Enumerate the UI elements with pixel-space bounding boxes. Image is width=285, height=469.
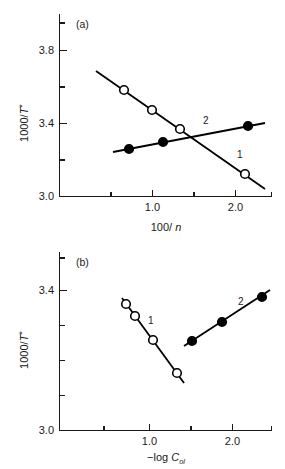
- chart-panel-a: 3.0 3.4 3.8 1.0 2.0 1000/T* 100/ n (a) 1…: [0, 0, 285, 240]
- panel-a-label: (a): [76, 18, 89, 30]
- panel-a-xlabel-1.0: 1.0: [145, 201, 160, 213]
- panel-b-series-1-point: [173, 369, 182, 378]
- panel-b-x-axis-title: −log Col: [147, 451, 185, 466]
- panel-b-xlabel-2.0: 2.0: [225, 435, 240, 447]
- panel-a-series-1-point: [176, 125, 185, 134]
- panel-a-series-1-point: [241, 170, 250, 179]
- panel-b-series-1-point: [122, 300, 131, 309]
- panel-a-x-axis-title-prefix: 100/: [151, 221, 175, 233]
- chart-panel-b: 3.0 3.4 1.0 2.0 1000/T* −log Col (b) 1 2: [0, 240, 285, 469]
- panel-b-x-axis-title-sub: ol: [179, 457, 185, 466]
- panel-b-series-2-point: [218, 318, 227, 327]
- panel-a-axes: [60, 14, 273, 197]
- panel-b-ylabel-3.4: 3.4: [39, 284, 54, 296]
- panel-b-series-2-point: [188, 337, 197, 346]
- panel-b-x-axis-title-var: C: [171, 451, 179, 463]
- panel-a-ylabel-3.4: 3.4: [39, 117, 54, 129]
- panel-a-y-axis-title-star: *: [17, 104, 27, 108]
- panel-b-xlabel-1.0: 1.0: [142, 435, 157, 447]
- panel-a-y-axis-title-prefix: 1000/: [18, 113, 30, 141]
- panel-a-y-axis-title: 1000/T*: [17, 104, 30, 142]
- panel-b-y-axis-title-star: *: [17, 331, 27, 335]
- panel-a-xlabel-2.0: 2.0: [228, 201, 243, 213]
- panel-b-series-1-label: 1: [148, 315, 154, 326]
- panel-b-series-1-point: [149, 336, 158, 345]
- panel-a-series-1-point: [148, 106, 157, 115]
- panel-a-ylabel-3.0: 3.0: [39, 190, 54, 202]
- panel-b-series-2-label: 2: [238, 296, 244, 307]
- panel-b-series-2-point: [258, 293, 267, 302]
- panel-b-series-1-point: [131, 312, 140, 321]
- panel-b-axes: [60, 252, 273, 431]
- panel-a-series-1-point: [120, 86, 129, 95]
- panel-a-series-1-label: 1: [237, 149, 243, 160]
- panel-a-series-2-point: [244, 122, 253, 131]
- panel-b-y-axis-title: 1000/T*: [17, 331, 30, 369]
- panel-b-label: (b): [76, 256, 89, 268]
- panel-a-series-2-point: [159, 138, 168, 147]
- figure-container: 3.0 3.4 3.8 1.0 2.0 1000/T* 100/ n (a) 1…: [0, 0, 285, 469]
- panel-a-series-2-fitline: [113, 123, 265, 152]
- panel-a-x-axis-title: 100/ n: [151, 221, 182, 233]
- panel-a-ylabel-3.8: 3.8: [39, 44, 54, 56]
- panel-a-series-2-label: 2: [203, 115, 209, 126]
- panel-a-x-axis-title-var: n: [175, 221, 181, 233]
- panel-b-x-axis-title-prefix: −log: [147, 451, 171, 463]
- panel-b-ylabel-3.0: 3.0: [39, 424, 54, 436]
- panel-a-series-2-point: [125, 145, 134, 154]
- panel-b-y-axis-title-prefix: 1000/: [18, 340, 30, 368]
